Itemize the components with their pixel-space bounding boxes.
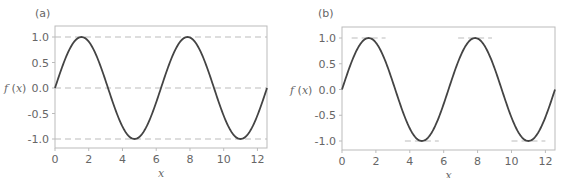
chart-b: (b)1.00.50.0-0.5-1.0024681012f (x)x: [280, 0, 561, 178]
y-tick-label: -1.0: [315, 135, 336, 148]
x-tick-label: 8: [474, 155, 481, 168]
y-tick-label: 0.5: [319, 58, 337, 71]
x-tick-label: 8: [186, 153, 193, 166]
panel-label: (b): [318, 7, 334, 20]
y-tick-label: 1.0: [319, 32, 337, 45]
y-tick-label: -1.0: [28, 133, 49, 146]
y-tick-label: -0.5: [315, 109, 336, 122]
x-axis-label: x: [445, 169, 452, 178]
y-tick-label: -0.5: [28, 108, 49, 121]
x-tick-label: 10: [217, 153, 231, 166]
y-axis-label: f (x): [289, 84, 312, 97]
x-tick-label: 6: [440, 155, 447, 168]
chart-a: (a)1.00.50.0-0.5-1.0024681012f (x)x: [0, 0, 280, 178]
x-tick-label: 4: [119, 153, 126, 166]
figure-caption-faded: [0, 178, 561, 191]
x-tick-label: 4: [406, 155, 413, 168]
x-tick-label: 0: [339, 155, 346, 168]
x-tick-label: 12: [250, 153, 264, 166]
x-tick-label: 12: [538, 155, 552, 168]
sine-curve: [342, 38, 555, 141]
y-tick-label: 0.0: [32, 82, 50, 95]
panel-a: (a)1.00.50.0-0.5-1.0024681012f (x)x: [0, 0, 280, 178]
panel-b: (b)1.00.50.0-0.5-1.0024681012f (x)x: [280, 0, 561, 178]
y-tick-label: 0.5: [32, 57, 50, 70]
x-axis-label: x: [158, 167, 165, 178]
y-axis-label: f (x): [3, 82, 26, 95]
x-tick-label: 10: [505, 155, 519, 168]
x-tick-label: 6: [153, 153, 160, 166]
x-tick-label: 2: [85, 153, 92, 166]
x-tick-label: 0: [52, 153, 59, 166]
y-tick-label: 0.0: [319, 84, 337, 97]
panel-label: (a): [35, 7, 50, 20]
x-tick-label: 2: [372, 155, 379, 168]
y-tick-label: 1.0: [32, 31, 50, 44]
